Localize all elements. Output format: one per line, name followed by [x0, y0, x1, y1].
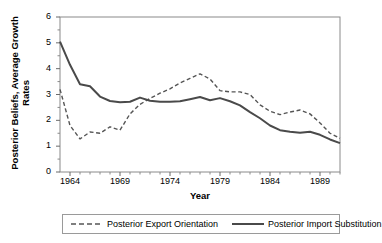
plot-frame — [60, 17, 340, 172]
y-tick-label: 6 — [33, 11, 51, 21]
y-tick-label: 4 — [33, 63, 51, 73]
x-axis-title: Year — [60, 190, 340, 201]
x-tick-label: 1989 — [303, 176, 337, 186]
legend-label-export-orientation: Posterior Export Orientation — [107, 219, 218, 229]
y-tick-label: 5 — [33, 37, 51, 47]
x-tick-label: 1984 — [253, 176, 287, 186]
legend-key-solid-icon — [231, 219, 265, 229]
chart-legend: Posterior Export Orientation Posterior I… — [62, 214, 340, 234]
x-tick-label: 1979 — [203, 176, 237, 186]
x-tick-label: 1969 — [103, 176, 137, 186]
series-line-export-orientation — [60, 74, 340, 139]
y-tick-label: 2 — [33, 114, 51, 124]
legend-key-dashed-icon — [70, 219, 104, 229]
y-tick-label: 3 — [33, 89, 51, 99]
y-tick-label: 0 — [33, 166, 51, 176]
y-tick-label: 1 — [33, 140, 51, 150]
legend-item-import-substitution: Posterior Import Substitution — [231, 219, 382, 229]
series-line-import-substitution — [60, 42, 340, 144]
x-tick-label: 1964 — [53, 176, 87, 186]
legend-label-import-substitution: Posterior Import Substitution — [268, 219, 382, 229]
x-tick-label: 1974 — [153, 176, 187, 186]
legend-item-export-orientation: Posterior Export Orientation — [70, 219, 218, 229]
